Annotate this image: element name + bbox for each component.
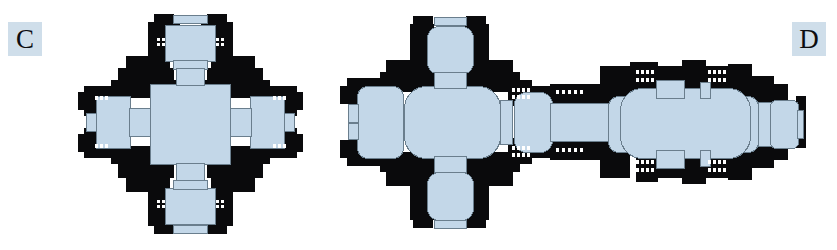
plan-label-d: D xyxy=(792,22,826,56)
floor-plan-figure xyxy=(0,0,837,250)
plan-label-c: C xyxy=(8,22,42,56)
